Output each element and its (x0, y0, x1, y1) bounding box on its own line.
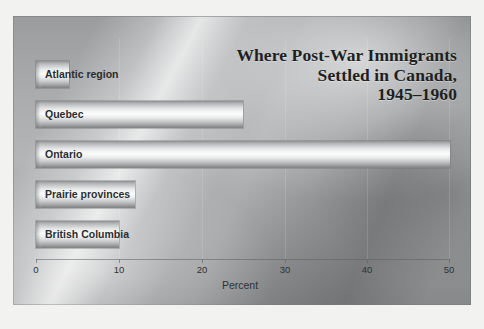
x-tick-mark (119, 259, 120, 263)
x-tick-label-20: 20 (197, 264, 208, 275)
x-tick-mark (202, 259, 203, 263)
x-tick-mark (285, 259, 286, 263)
bar-cap (36, 181, 42, 208)
x-tick-label-30: 30 (280, 264, 291, 275)
bar-cap (36, 221, 42, 248)
x-axis-title: Percent (222, 279, 258, 291)
bar-cap (36, 101, 42, 128)
chart-title: Where Post-War Immigrants Settled in Can… (157, 46, 457, 105)
bar-cap (36, 141, 42, 168)
bar-ontario[interactable] (36, 141, 450, 168)
x-tick-mark (449, 259, 450, 263)
chart-panel: Atlantic region Quebec Ontario Prairie p… (13, 16, 471, 305)
bar-cap (36, 61, 42, 88)
x-tick-mark (36, 259, 37, 263)
x-tick-label-0: 0 (33, 264, 38, 275)
x-tick-label-40: 40 (362, 264, 373, 275)
x-tick-mark (367, 259, 368, 263)
x-tick-label-10: 10 (114, 264, 125, 275)
bar-label-ontario: Ontario (45, 141, 82, 168)
bar-label-british-columbia: British Columbia (45, 221, 129, 248)
bar-label-atlantic-region: Atlantic region (45, 61, 119, 88)
x-axis-line (36, 259, 450, 260)
chart-screenshot: Atlantic region Quebec Ontario Prairie p… (0, 0, 484, 329)
x-tick-label-50: 50 (444, 264, 455, 275)
bar-label-prairie-provinces: Prairie provinces (45, 181, 130, 208)
bar-label-quebec: Quebec (45, 101, 84, 128)
